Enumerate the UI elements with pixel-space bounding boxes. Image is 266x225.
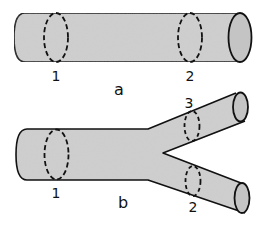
lower-branch-end-cap (235, 183, 250, 213)
section-3-label: 3 (185, 95, 194, 111)
section-2-label: 2 (189, 199, 198, 215)
tube-end-cap (229, 13, 252, 62)
panel-a-straight-tube: 1 2 a (14, 13, 252, 99)
flow-tubes-figure: 1 2 a 1 3 2 b (0, 0, 266, 225)
panel-b-caption: b (118, 193, 128, 212)
upper-branch-end-cap (233, 93, 248, 122)
section-1-label: 1 (52, 68, 61, 84)
section-1-label: 1 (52, 185, 61, 201)
branching-tube-body (16, 93, 245, 213)
panel-a-caption: a (114, 80, 124, 99)
panel-b-branching-tube: 1 3 2 b (16, 93, 250, 216)
diagram-canvas: 1 2 a 1 3 2 b (0, 0, 266, 225)
section-2-label: 2 (186, 68, 195, 84)
